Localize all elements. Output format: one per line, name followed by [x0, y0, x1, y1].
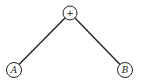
- node-b-label: B: [121, 65, 129, 75]
- node-a: A: [7, 63, 22, 78]
- edge-root-to-b: [75, 18, 120, 65]
- node-a-label: A: [10, 65, 18, 75]
- expression-tree-diagram: + A B: [0, 0, 142, 82]
- edge-root-to-a: [19, 18, 65, 65]
- root-node-label: +: [66, 8, 74, 18]
- root-node: +: [63, 6, 77, 20]
- node-b: B: [118, 63, 133, 78]
